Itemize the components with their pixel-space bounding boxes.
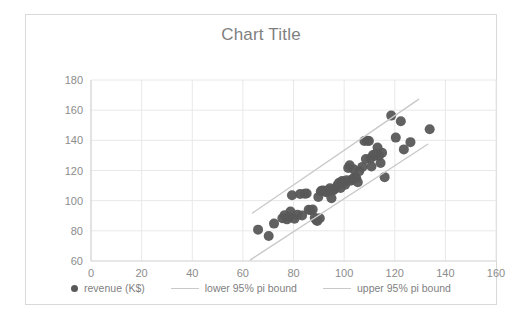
chart-container: Chart Title 6080100120140160180020406080… [25,14,497,305]
scatter-point[interactable] [405,137,415,147]
legend-label: upper 95% pi bound [357,282,451,294]
scatter-point[interactable] [364,136,374,146]
x-tick-label: 20 [136,267,148,279]
y-tick-label: 160 [65,104,83,116]
scatter-point[interactable] [377,148,387,158]
scatter-point[interactable] [366,162,376,172]
legend-label: lower 95% pi bound [205,282,297,294]
x-tick-label: 140 [436,267,454,279]
legend-label: revenue (K$) [84,282,145,294]
scatter-point[interactable] [253,225,263,235]
scatter-point[interactable] [391,133,401,143]
legend-line-icon [171,288,199,289]
x-tick-label: 0 [88,267,94,279]
y-tick-label: 80 [71,225,83,237]
chart-legend: revenue (K$)lower 95% pi boundupper 95% … [26,282,496,294]
legend-dot-icon [71,285,78,292]
y-tick-label: 120 [65,165,83,177]
scatter-point[interactable] [396,116,406,126]
y-tick-label: 180 [65,74,83,86]
y-tick-label: 60 [71,255,83,267]
scatter-point[interactable] [353,177,363,187]
scatter-point[interactable] [425,124,435,134]
legend-item[interactable]: lower 95% pi bound [171,282,297,294]
x-tick-label: 80 [287,267,299,279]
scatter-point[interactable] [380,172,390,182]
scatter-point[interactable] [308,204,318,214]
scatter-point[interactable] [376,158,386,168]
x-tick-label: 60 [237,267,249,279]
x-tick-label: 100 [335,267,353,279]
x-tick-label: 40 [186,267,198,279]
scatter-plot: 6080100120140160180020406080100120140160 [26,15,521,325]
legend-line-icon [323,288,351,289]
x-tick-label: 160 [487,267,505,279]
legend-item[interactable]: revenue (K$) [71,282,145,294]
scatter-point[interactable] [269,219,279,229]
y-tick-label: 100 [65,195,83,207]
x-tick-label: 120 [386,267,404,279]
scatter-point[interactable] [264,231,274,241]
scatter-point[interactable] [302,188,312,198]
bound-line [250,144,427,260]
y-tick-label: 140 [65,134,83,146]
legend-item[interactable]: upper 95% pi bound [323,282,451,294]
